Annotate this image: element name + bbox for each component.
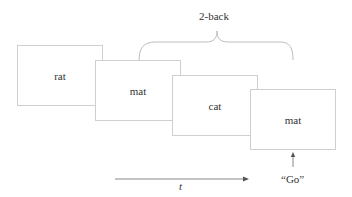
go-arrow xyxy=(291,152,295,167)
go-response-label: “Go” xyxy=(281,173,304,185)
time-axis-label: t xyxy=(179,180,182,192)
arrows xyxy=(0,0,352,197)
